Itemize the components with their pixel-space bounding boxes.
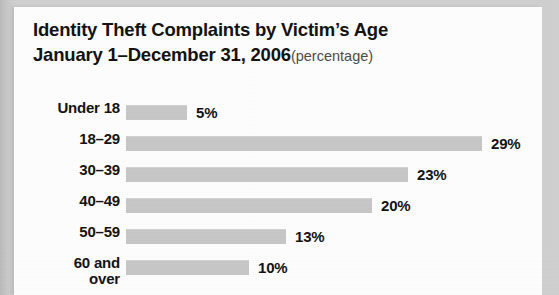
- page-title-line-1: Identity Theft Complaints by Victim’s Ag…: [33, 17, 525, 42]
- chart-row: 30–3923%: [14, 161, 542, 192]
- page-title-daterange: January 1–December 31, 2006: [33, 44, 291, 65]
- chart-title-block: Identity Theft Complaints by Victim’s Ag…: [33, 17, 525, 69]
- page-title-line-2: January 1–December 31, 2006(percentage): [33, 42, 525, 69]
- category-label: 30–39: [14, 161, 120, 178]
- bar-track: 10%: [126, 260, 542, 275]
- category-label: 60 andover: [14, 254, 120, 287]
- bar-track: 23%: [126, 167, 542, 182]
- bar: [126, 136, 482, 151]
- bar: [126, 260, 249, 275]
- bar-value-label: 10%: [258, 259, 287, 276]
- scanned-page-background: Identity Theft Complaints by Victim’s Ag…: [0, 0, 559, 295]
- bar: [126, 198, 372, 213]
- bar-value-label: 13%: [295, 228, 324, 245]
- category-label: 50–59: [14, 223, 120, 240]
- chart-row: 18–2929%: [14, 130, 542, 161]
- page-title-unit-note: (percentage): [291, 48, 373, 64]
- category-label-line-1: Under 18: [57, 99, 120, 116]
- bar-track: 5%: [126, 105, 542, 120]
- chart-row: Under 185%: [14, 99, 542, 130]
- category-label: Under 18: [14, 99, 120, 116]
- category-label-line-1: 30–39: [79, 161, 120, 178]
- bar-track: 20%: [126, 198, 542, 213]
- bar-chart: Under 185%18–2929%30–3923%40–4920%50–591…: [14, 99, 542, 285]
- bar-value-label: 5%: [196, 104, 217, 121]
- chart-row: 40–4920%: [14, 192, 542, 223]
- bar-value-label: 20%: [381, 197, 410, 214]
- category-label-line-1: 50–59: [79, 223, 120, 240]
- bar-track: 29%: [126, 136, 542, 151]
- category-label: 40–49: [14, 192, 120, 209]
- bar: [126, 229, 286, 244]
- bar: [126, 105, 187, 120]
- category-label-line-1: 40–49: [79, 192, 120, 209]
- bar: [126, 167, 408, 182]
- bar-track: 13%: [126, 229, 542, 244]
- chart-card: Identity Theft Complaints by Victim’s Ag…: [14, 7, 542, 295]
- bar-value-label: 23%: [417, 166, 446, 183]
- category-label-line-1: 60 and: [74, 254, 120, 271]
- category-label-line-1: 18–29: [79, 130, 120, 147]
- bar-value-label: 29%: [491, 135, 520, 152]
- category-label: 18–29: [14, 130, 120, 147]
- category-label-line-2: over: [14, 271, 120, 287]
- chart-row: 50–5913%: [14, 223, 542, 254]
- chart-row: 60 andover10%: [14, 254, 542, 285]
